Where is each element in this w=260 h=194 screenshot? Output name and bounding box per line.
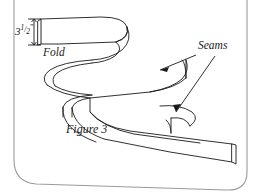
lower-band-end-face [232, 144, 236, 164]
middle-band-bottom-edge [53, 63, 92, 86]
folded-strip-illustration [0, 0, 260, 194]
seams-leader-lower [176, 56, 215, 112]
figure-caption: Figure 3 [66, 123, 107, 135]
height-dimension-label: 3 1 / 2 ” [15, 26, 33, 37]
dimension-fraction: 1 / 2 [21, 26, 30, 34]
seams-leader-upper [160, 55, 196, 70]
seams-label: Seams [198, 40, 227, 52]
fraction-numerator: 1 [21, 24, 25, 32]
mid-lobe-outer [150, 60, 187, 92]
top-band-face [41, 17, 128, 44]
figure-page: 3 1 / 2 ” Fold Seams Figure 3 [0, 0, 260, 194]
lower-band-left-turn-top [72, 98, 90, 108]
fold-label: Fold [43, 47, 65, 59]
upper-seam-edge [182, 60, 186, 78]
lower-curl-inner [171, 118, 190, 126]
lower-band-top-edge [90, 98, 232, 144]
dimension-unit: ” [30, 24, 34, 32]
lower-seam-edge [166, 120, 171, 133]
top-band-end-face [38, 19, 41, 45]
middle-band-return-inner [55, 86, 92, 95]
